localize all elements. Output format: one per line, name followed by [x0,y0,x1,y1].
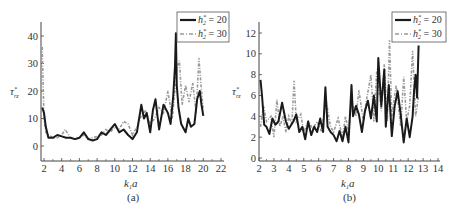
x-tick-label: 16 [163,163,174,174]
x-tick-label: 7 [331,163,336,174]
legend-a: h*2 = 20 h*2 = 30 [177,12,229,42]
x-axis-label-b: k1a [341,177,355,190]
y-axis-label-b: τ*rz [232,85,241,99]
y-tick-label: 0 [251,153,256,164]
x-tick-label: 8 [94,163,99,174]
x-tick-label: 6 [77,163,82,174]
x-tick-label: 13 [418,163,429,174]
chart-panel-b: 234567891011121314 024681012 h*2 = 20 h*… [232,12,446,204]
x-tick-label: 10 [373,163,384,174]
x-tick-label: 4 [59,163,65,174]
x-tick-label: 2 [41,163,46,174]
series-line-h30 [42,47,203,139]
x-tick-label: 4 [286,163,292,174]
caption-b: (b) [343,191,356,204]
y-tick-label: 40 [28,31,39,42]
x-tick-label: 5 [301,163,306,174]
y-ticks-b: 024681012 [246,28,263,164]
x-tick-label: 14 [145,163,156,174]
series-b [261,40,419,142]
x-tick-label: 20 [198,163,209,174]
x-tick-label: 10 [110,163,121,174]
y-tick-label: 30 [28,58,39,69]
x-tick-label: 11 [388,163,398,174]
y-tick-label: 8 [251,69,256,80]
chart-panel-a: 246810121416182022 010203040 h*2 = 20 h*… [10,12,229,204]
y-tick-label: 20 [28,86,39,97]
legend-label-1: h*2 = 20 [413,14,442,26]
y-tick-label: 12 [246,28,257,39]
x-ticks-a: 246810121416182022 [41,158,226,174]
y-tick-label: 0 [33,141,38,152]
y-tick-label: 4 [251,111,257,122]
legend-label-2: h*2 = 30 [413,28,442,40]
series-line-h20 [42,33,203,140]
legend-label-2: h*2 = 30 [198,28,227,40]
x-tick-label: 12 [127,163,138,174]
legend-b: h*2 = 20 h*2 = 30 [392,12,446,42]
y-tick-label: 10 [28,113,39,124]
y-tick-label: 10 [246,48,257,59]
caption-a: (a) [127,191,140,204]
x-tick-label: 2 [256,163,261,174]
series-a [42,33,203,140]
x-tick-label: 6 [316,163,321,174]
legend-label-1: h*2 = 20 [198,14,227,26]
x-tick-label: 18 [180,163,191,174]
x-tick-label: 22 [216,163,227,174]
x-ticks-b: 234567891011121314 [256,158,444,174]
x-tick-label: 12 [403,163,414,174]
y-axis-label-a: τ*rz [10,85,19,99]
y-tick-label: 2 [251,132,256,143]
x-tick-label: 3 [271,163,276,174]
x-tick-label: 14 [433,163,444,174]
x-tick-label: 9 [361,163,366,174]
series-line-h30 [261,40,419,137]
x-axis-label-a: k1a [124,177,138,190]
x-tick-label: 8 [346,163,351,174]
figure: 246810121416182022 010203040 h*2 = 20 h*… [0,0,458,208]
y-tick-label: 6 [251,90,256,101]
